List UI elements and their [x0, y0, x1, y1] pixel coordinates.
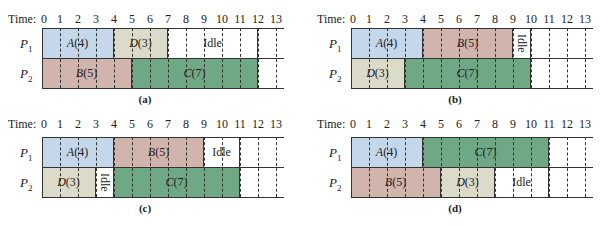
- time-tick: 3: [93, 118, 99, 130]
- task-label: Idle: [97, 173, 112, 192]
- grid-vline: [441, 137, 442, 197]
- grid-vline: [186, 28, 187, 88]
- task-label: B(5): [457, 36, 478, 51]
- grid-vline: [258, 28, 259, 88]
- time-tick: 9: [201, 13, 207, 25]
- grid-vline: [114, 28, 115, 88]
- time-tick: 2: [384, 13, 390, 25]
- grid-vline: [567, 28, 568, 88]
- grid-vline: [387, 28, 388, 88]
- time-tick: 9: [510, 118, 516, 130]
- grid-vline: [114, 137, 115, 197]
- task-block-b: B(5): [351, 167, 441, 197]
- grid-vline: [513, 137, 514, 197]
- task-label: B(5): [385, 175, 406, 190]
- time-tick: 5: [438, 13, 444, 25]
- time-tick: 2: [75, 118, 81, 130]
- grid-vline: [186, 137, 187, 197]
- grid-hline: [42, 88, 284, 89]
- time-tick: 12: [252, 118, 264, 130]
- grid-hline: [42, 197, 284, 198]
- time-axis-label: Time:: [8, 13, 36, 25]
- time-tick: 8: [183, 13, 189, 25]
- time-tick: 5: [129, 118, 135, 130]
- task-label: B(5): [148, 145, 169, 160]
- task-block-b: B(5): [423, 28, 513, 58]
- time-tick: 10: [525, 13, 537, 25]
- grid-vline: [369, 137, 370, 197]
- time-tick: 6: [456, 13, 462, 25]
- processor-label-P2: P2: [329, 176, 341, 195]
- processor-label-P1: P1: [20, 146, 32, 165]
- time-tick: 10: [216, 118, 228, 130]
- task-block-d: D(3): [42, 167, 96, 197]
- time-axis-label: Time:: [317, 118, 345, 130]
- time-tick: 3: [93, 13, 99, 25]
- grid-vline: [276, 28, 277, 88]
- time-tick: 11: [234, 118, 246, 130]
- panel-caption: (b): [448, 93, 461, 105]
- grid-vline: [549, 28, 550, 88]
- grid-vline: [132, 137, 133, 197]
- time-tick: 11: [234, 13, 246, 25]
- time-tick: 2: [384, 118, 390, 130]
- time-tick: 6: [147, 13, 153, 25]
- time-tick: 4: [111, 118, 117, 130]
- grid-vline: [585, 28, 586, 88]
- grid-vline: [60, 28, 61, 88]
- grid-hline: [351, 197, 593, 198]
- time-tick: 8: [492, 118, 498, 130]
- time-tick: 6: [456, 118, 462, 130]
- processor-label-P2: P2: [20, 176, 32, 195]
- grid-vline: [423, 137, 424, 197]
- time-tick: 0: [41, 118, 47, 130]
- time-tick: 6: [147, 118, 153, 130]
- time-tick: 3: [402, 118, 408, 130]
- task-label: Idle: [203, 36, 222, 51]
- time-tick: 11: [543, 118, 555, 130]
- processor-label-P1: P1: [20, 37, 32, 56]
- grid-vline: [78, 137, 79, 197]
- grid-vline: [495, 28, 496, 88]
- grid-vline: [96, 28, 97, 88]
- grid-vline: [222, 28, 223, 88]
- time-axis-label: Time:: [317, 13, 345, 25]
- grid-vline: [240, 28, 241, 88]
- time-tick: 9: [510, 13, 516, 25]
- time-tick: 12: [561, 13, 573, 25]
- time-tick: 1: [57, 13, 63, 25]
- time-tick: 7: [474, 13, 480, 25]
- grid-left-border: [351, 28, 352, 89]
- task-block-idle: Idle: [495, 167, 549, 197]
- time-tick: 7: [474, 118, 480, 130]
- time-tick: 13: [579, 118, 591, 130]
- time-tick: 0: [41, 13, 47, 25]
- grid-vline: [441, 28, 442, 88]
- time-tick: 13: [270, 118, 282, 130]
- grid-vline: [168, 137, 169, 197]
- time-tick: 10: [216, 13, 228, 25]
- time-tick: 13: [579, 13, 591, 25]
- panel-caption: (d): [448, 202, 461, 214]
- grid-vline: [150, 137, 151, 197]
- time-tick: 4: [420, 118, 426, 130]
- time-tick: 1: [366, 13, 372, 25]
- time-tick: 1: [366, 118, 372, 130]
- grid-vline: [132, 28, 133, 88]
- time-tick: 7: [165, 13, 171, 25]
- task-block-d: D(3): [441, 167, 495, 197]
- task-block-d: D(3): [351, 58, 405, 88]
- time-tick: 7: [165, 118, 171, 130]
- grid-vline: [513, 28, 514, 88]
- processor-label-P2: P2: [329, 67, 341, 86]
- time-tick: 12: [252, 13, 264, 25]
- time-tick: 8: [183, 118, 189, 130]
- grid-left-border: [351, 137, 352, 198]
- time-tick: 12: [561, 118, 573, 130]
- grid-vline: [240, 137, 241, 197]
- grid-vline: [459, 137, 460, 197]
- grid-vline: [531, 137, 532, 197]
- grid-vline: [204, 28, 205, 88]
- time-tick: 3: [402, 13, 408, 25]
- time-tick: 4: [420, 13, 426, 25]
